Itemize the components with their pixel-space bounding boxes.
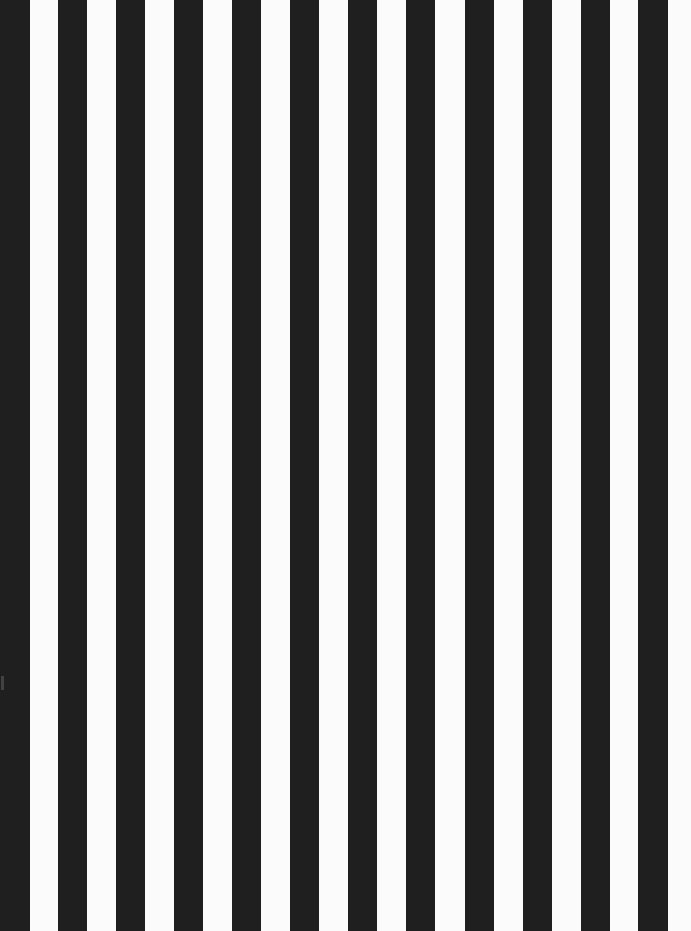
black-stripe <box>174 0 203 931</box>
black-stripe <box>116 0 145 931</box>
black-stripe <box>0 0 30 931</box>
black-stripe <box>58 0 87 931</box>
black-stripe <box>290 0 319 931</box>
black-stripe <box>523 0 552 931</box>
black-stripe <box>638 0 668 931</box>
black-stripe <box>465 0 494 931</box>
black-stripe <box>232 0 261 931</box>
black-stripe <box>406 0 435 931</box>
black-stripe <box>348 0 377 931</box>
black-stripe <box>581 0 610 931</box>
scan-artifact <box>1 676 4 690</box>
striped-image <box>0 0 691 931</box>
